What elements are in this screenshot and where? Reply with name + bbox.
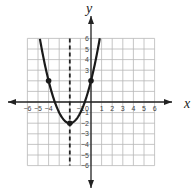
y-axis-label: y (84, 1, 93, 16)
y-axis-up-arrow-icon (88, 16, 94, 24)
x-tick-label: 5 (142, 105, 146, 112)
axes (8, 16, 172, 188)
y-tick-label: −3 (81, 130, 89, 137)
y-tick-label: −4 (81, 141, 89, 148)
x-tick-label: 3 (121, 105, 125, 112)
point-marker (88, 78, 94, 84)
parabola-graph: −6−5−4−101234566543−1−2−3−4−5−6 x y (0, 0, 196, 192)
point-marker (46, 78, 52, 84)
x-tick-label: 1 (100, 105, 104, 112)
y-tick-label: 5 (85, 46, 89, 53)
x-tick-label: −4 (45, 105, 53, 112)
x-axis-right-arrow-icon (164, 99, 172, 105)
y-tick-label: −2 (81, 120, 89, 127)
y-tick-label: −6 (81, 162, 89, 169)
point-marker (67, 120, 73, 126)
y-tick-label: −5 (81, 152, 89, 159)
x-tick-label: −5 (34, 105, 42, 112)
x-axis-left-arrow-icon (8, 99, 16, 105)
x-tick-label: −6 (23, 105, 31, 112)
y-tick-label: 3 (85, 67, 89, 74)
y-tick-label: 4 (85, 56, 89, 63)
y-tick-label: 6 (85, 35, 89, 42)
x-tick-label: 6 (153, 105, 157, 112)
x-tick-label: 2 (110, 105, 114, 112)
y-axis-down-arrow-icon (88, 180, 94, 188)
x-axis-label: x (183, 96, 191, 111)
x-tick-label: 4 (131, 105, 135, 112)
